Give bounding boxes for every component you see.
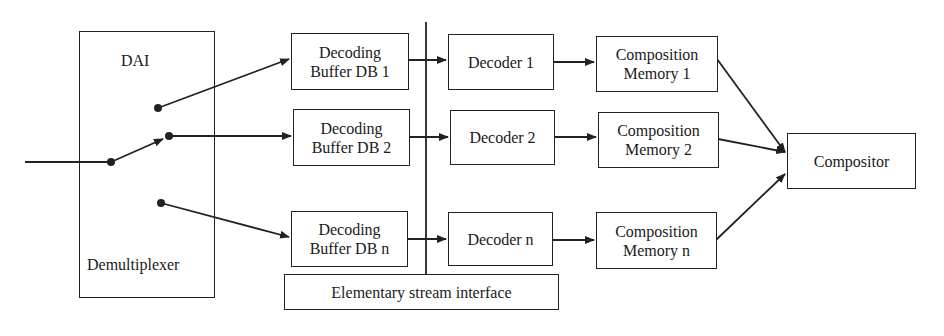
compositor-label: Compositor — [814, 152, 890, 171]
demultiplexer-label: Demultiplexer — [87, 256, 179, 274]
composition-memory-1-line1: Composition — [616, 45, 699, 64]
decoding-buffer-2: Decoding Buffer DB 2 — [293, 109, 410, 166]
composition-memory-2-line2: Memory 2 — [617, 140, 700, 159]
composition-memory-1-line2: Memory 1 — [616, 64, 699, 83]
composition-memory-2: Composition Memory 2 — [598, 112, 719, 168]
es-interface-label: Elementary stream interface — [331, 283, 511, 302]
decoding-buffer-1: Decoding Buffer DB 1 — [291, 33, 409, 90]
decoder-2: Decoder 2 — [450, 110, 555, 165]
decoding-buffer-n-line2: Buffer DB n — [310, 239, 390, 258]
composition-memory-n: Composition Memory n — [596, 212, 717, 269]
elementary-stream-interface: Elementary stream interface — [284, 274, 559, 310]
composition-memory-1: Composition Memory 1 — [596, 36, 718, 92]
decoding-buffer-n: Decoding Buffer DB n — [291, 211, 408, 267]
decoding-buffer-2-line2: Buffer DB 2 — [312, 138, 392, 157]
decoding-buffer-n-line1: Decoding — [310, 220, 390, 239]
composition-memory-n-line2: Memory n — [615, 241, 698, 260]
dai-label: DAI — [121, 52, 149, 70]
decoder-2-label: Decoder 2 — [469, 128, 535, 147]
decoder-1-label: Decoder 1 — [468, 53, 534, 72]
composition-memory-2-line1: Composition — [617, 121, 700, 140]
decoding-buffer-1-line2: Buffer DB 1 — [310, 62, 390, 81]
decoding-buffer-1-line1: Decoding — [310, 43, 390, 62]
decoder-n: Decoder n — [448, 212, 553, 266]
decoder-n-label: Decoder n — [467, 230, 533, 249]
decoder-1: Decoder 1 — [448, 34, 554, 90]
compositor-box: Compositor — [787, 133, 916, 189]
decoding-buffer-2-line1: Decoding — [312, 119, 392, 138]
composition-memory-n-line1: Composition — [615, 222, 698, 241]
